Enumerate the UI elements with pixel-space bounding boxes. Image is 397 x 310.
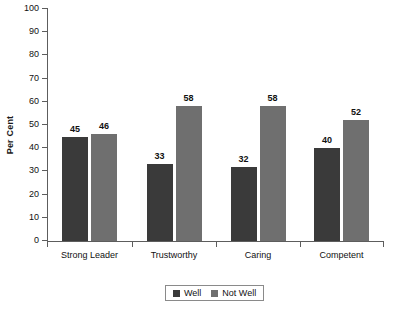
bar-chart: Per Cent 1009080706050403020100 45463358… xyxy=(0,0,397,310)
x-axis-tick xyxy=(383,242,384,247)
legend-label: Well xyxy=(184,288,201,298)
y-axis-tick-label: 0 xyxy=(10,236,39,245)
bar-well-competent xyxy=(314,148,340,241)
y-axis-tick-label: 90 xyxy=(10,27,39,36)
legend-label: Not Well xyxy=(222,288,256,298)
y-axis-tick-label: 80 xyxy=(10,50,39,59)
y-axis-tick-label-text: 0 xyxy=(15,236,39,245)
legend: WellNot Well xyxy=(165,285,264,301)
bar-value-label: 46 xyxy=(85,121,123,131)
bar-not-well-trustworthy xyxy=(176,106,202,241)
bar-value-label: 40 xyxy=(308,135,346,145)
y-axis-tick-label: 40 xyxy=(10,143,39,152)
bar-well-caring xyxy=(231,167,257,241)
y-axis-tick-label-text: 80 xyxy=(15,50,39,59)
y-axis-tick-label: 50 xyxy=(10,120,39,129)
bar-value-label: 32 xyxy=(225,154,263,164)
bar-not-well-caring xyxy=(260,106,286,241)
x-axis-tick xyxy=(47,242,48,247)
y-axis-tick-label-text: 10 xyxy=(15,213,39,222)
bar-value-label: 58 xyxy=(254,93,292,103)
y-axis-tick-label-text: 40 xyxy=(15,143,39,152)
y-axis-tick-label-text: 100 xyxy=(15,4,39,13)
x-axis-tick xyxy=(132,242,133,247)
bar-not-well-competent xyxy=(343,120,369,241)
x-axis-category-label: Strong Leader xyxy=(47,250,132,261)
x-axis-category-label: Competent xyxy=(300,250,383,261)
y-axis-tick-label-text: 60 xyxy=(15,97,39,106)
x-axis-category-label: Caring xyxy=(216,250,300,261)
y-axis-tick-label: 10 xyxy=(10,213,39,222)
y-axis-title: Per Cent xyxy=(2,100,18,170)
legend-swatch-icon xyxy=(211,290,218,297)
bar-well-strong-leader xyxy=(62,137,88,241)
x-axis-tick xyxy=(216,242,217,247)
bar-not-well-strong-leader xyxy=(91,134,117,241)
bar-value-label: 33 xyxy=(141,151,179,161)
y-axis-tick-label-text: 70 xyxy=(15,74,39,83)
y-axis-tick-label-text: 90 xyxy=(15,27,39,36)
y-axis-tick-label-text: 30 xyxy=(15,166,39,175)
y-axis-tick-label: 100 xyxy=(10,4,39,13)
legend-item: Not Well xyxy=(211,288,256,298)
y-axis-tick-label-text: 50 xyxy=(15,120,39,129)
x-axis-tick xyxy=(300,242,301,247)
y-axis-tick-label: 30 xyxy=(10,166,39,175)
y-axis-tick-label-text: 20 xyxy=(15,190,39,199)
x-axis-category-label: Trustworthy xyxy=(132,250,216,261)
y-axis-tick-label: 60 xyxy=(10,97,39,106)
y-axis-tick-label: 20 xyxy=(10,190,39,199)
bar-well-trustworthy xyxy=(147,164,173,241)
bar-value-label: 52 xyxy=(337,107,375,117)
bar-value-label: 58 xyxy=(170,93,208,103)
y-axis-tick-label: 70 xyxy=(10,74,39,83)
legend-item: Well xyxy=(173,288,201,298)
legend-swatch-icon xyxy=(173,290,180,297)
